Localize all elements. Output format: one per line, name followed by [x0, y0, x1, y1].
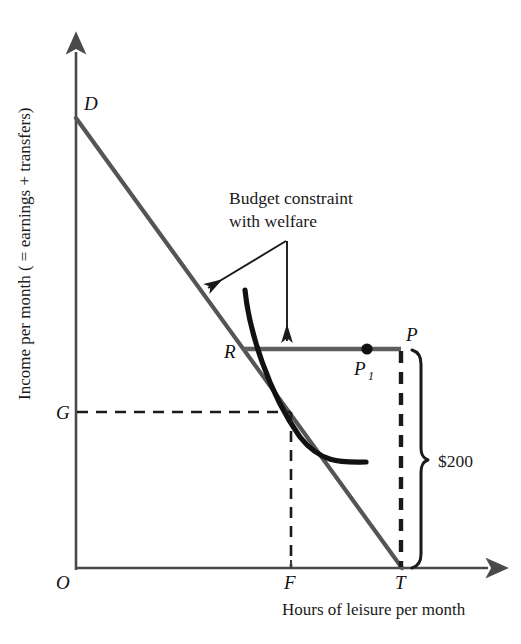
curly-brace-200: [412, 350, 428, 568]
label-P: P: [405, 324, 418, 345]
label-P1-subscript: 1: [368, 369, 374, 383]
label-P1: P: [353, 358, 366, 379]
label-O: O: [56, 572, 70, 593]
axes-group: [76, 52, 488, 570]
label-R: R: [223, 341, 236, 362]
label-F: F: [283, 572, 296, 593]
arrow-to-budget-line: [208, 241, 286, 288]
y-axis-title: Income per month ( = earnings + transfer…: [15, 108, 34, 401]
annotation-line-2: with welfare: [229, 211, 317, 231]
budget-constraint-line: [76, 118, 402, 568]
x-axis-title: Hours of leisure per month: [282, 600, 466, 619]
label-G: G: [56, 402, 70, 423]
figure-canvas: Income per month ( = earnings + transfer…: [0, 0, 521, 644]
label-D: D: [83, 93, 98, 114]
annotation-line-1: Budget constraint: [229, 188, 353, 208]
point-P1-dot: [361, 343, 372, 354]
label-T: T: [395, 572, 407, 593]
dashed-reference-lines: [77, 351, 401, 567]
bracket-value-label: $200: [438, 451, 473, 471]
economics-figure: Income per month ( = earnings + transfer…: [0, 0, 521, 644]
